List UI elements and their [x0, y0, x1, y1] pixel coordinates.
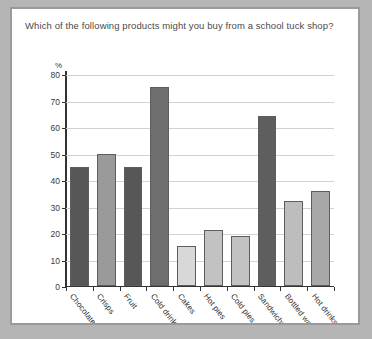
y-tick-label: 60	[51, 123, 60, 133]
x-tick-label: Cakes	[176, 292, 197, 316]
x-tick-label: Hot drinks	[310, 292, 340, 325]
x-tick-label: Crisps	[95, 292, 116, 316]
gridline	[66, 102, 334, 103]
x-tick-mark	[254, 287, 255, 291]
question-text: Which of the following products might yo…	[25, 19, 343, 33]
chart-card: Which of the following products might yo…	[10, 7, 360, 325]
gridline	[66, 75, 334, 76]
bar	[70, 167, 89, 286]
bar	[284, 201, 303, 286]
bar	[150, 87, 169, 286]
x-tick-mark	[307, 287, 308, 291]
y-tick-label: 40	[51, 176, 60, 186]
y-tick-mark	[62, 155, 66, 156]
y-tick-label: 10	[51, 256, 60, 266]
bar	[97, 154, 116, 287]
gridline	[66, 128, 334, 129]
y-tick-mark	[62, 261, 66, 262]
y-tick-mark	[62, 234, 66, 235]
y-tick-mark	[62, 208, 66, 209]
bar	[231, 236, 250, 286]
y-tick-mark	[62, 102, 66, 103]
x-tick-mark	[280, 287, 281, 291]
x-tick-mark	[146, 287, 147, 291]
y-tick-label: 0	[55, 282, 60, 292]
x-tick-mark	[334, 287, 335, 291]
x-tick-mark	[66, 287, 67, 291]
y-tick-label: 30	[51, 203, 60, 213]
y-axis-unit-label: %	[55, 61, 62, 70]
x-tick-mark	[227, 287, 228, 291]
y-tick-mark	[62, 75, 66, 76]
x-tick-mark	[173, 287, 174, 291]
plot-region: 01020304050607080 Chocolate barsCrispsFr…	[66, 75, 334, 287]
x-tick-mark	[120, 287, 121, 291]
x-tick-mark	[200, 287, 201, 291]
x-tick-label: Hot pies	[202, 292, 228, 321]
bar	[204, 230, 223, 286]
bar	[258, 116, 277, 286]
y-axis-line	[65, 71, 67, 287]
y-tick-mark	[62, 181, 66, 182]
chart-area: % 01020304050607080 Chocolate barsCrisps…	[12, 61, 358, 323]
y-tick-mark	[62, 128, 66, 129]
screenshot-root: Which of the following products might yo…	[0, 0, 372, 339]
y-tick-label: 70	[51, 97, 60, 107]
y-tick-label: 80	[51, 70, 60, 80]
bar	[124, 167, 143, 286]
y-tick-label: 50	[51, 150, 60, 160]
x-tick-label: Fruit	[122, 292, 139, 311]
bar	[311, 191, 330, 286]
x-tick-mark	[93, 287, 94, 291]
bar	[177, 246, 196, 286]
x-tick-label: Cold pies	[229, 292, 257, 325]
y-tick-label: 20	[51, 229, 60, 239]
